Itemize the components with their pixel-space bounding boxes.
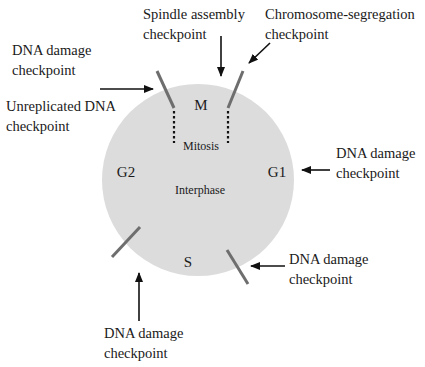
phase-label-s: S — [184, 254, 192, 271]
label-chromosome-segregation: Chromosome-segregation checkpoint — [265, 4, 415, 44]
label-line-2: checkpoint — [289, 269, 368, 289]
label-line-2: checkpoint — [6, 116, 116, 136]
label-line-2: checkpoint — [265, 24, 415, 44]
cell-cycle-diagram: M Mitosis G2 G1 Interphase S DNA damage … — [0, 0, 425, 367]
label-dna-damage-g1: DNA damage checkpoint — [336, 143, 415, 183]
phase-label-m: M — [194, 97, 207, 114]
label-line-2: checkpoint — [143, 24, 245, 44]
label-line-1: DNA damage — [289, 249, 368, 269]
label-line-2: checkpoint — [12, 60, 91, 80]
label-line-2: checkpoint — [104, 343, 183, 363]
label-dna-damage-g2-s: DNA damage checkpoint — [104, 323, 183, 363]
label-line-1: DNA damage — [12, 40, 91, 60]
label-dna-damage-s-g1: DNA damage checkpoint — [289, 249, 368, 289]
phase-label-interphase: Interphase — [175, 183, 225, 198]
label-line-1: Spindle assembly — [143, 4, 245, 24]
label-line-1: DNA damage — [104, 323, 183, 343]
label-line-1: DNA damage — [336, 143, 415, 163]
label-dna-damage-g2: DNA damage checkpoint — [12, 40, 91, 80]
label-line-1: Chromosome-segregation — [265, 4, 415, 24]
phase-label-g1: G1 — [268, 164, 286, 181]
phase-label-mitosis: Mitosis — [183, 139, 219, 154]
label-unreplicated-dna: Unreplicated DNA checkpoint — [6, 96, 116, 136]
arrow-chromosome-segregation — [249, 43, 270, 63]
label-spindle-assembly: Spindle assembly checkpoint — [143, 4, 245, 44]
label-line-2: checkpoint — [336, 163, 415, 183]
phase-label-g2: G2 — [117, 164, 135, 181]
label-line-1: Unreplicated DNA — [6, 96, 116, 116]
